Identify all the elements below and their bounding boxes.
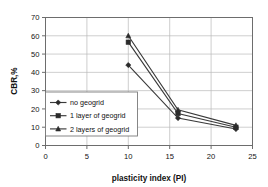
data-point-square-icon: [126, 40, 130, 44]
y-tick-label: 70: [31, 13, 39, 22]
y-tick-label: 20: [31, 105, 39, 114]
y-axis-title: CBR,%: [10, 67, 19, 95]
legend-item-label: 1 layer of geogrid: [70, 111, 126, 120]
x-tick-label: 5: [85, 152, 89, 161]
y-tick-label: 10: [31, 123, 39, 132]
y-tick-label: 60: [31, 32, 39, 41]
legend-item-label: no geogrid: [70, 98, 104, 107]
x-tick-label: 10: [124, 152, 132, 161]
legend-item-label: 2 layers of geogrid: [70, 125, 129, 134]
x-tick-label: 15: [165, 152, 173, 161]
y-tick-label: 0: [35, 141, 39, 150]
chart-legend: no geogrid1 layer of geogrid2 layers of …: [46, 92, 138, 136]
cbr-vs-plasticity-index-line-chart: 0510152025 010203040506070 no geogrid1 l…: [0, 0, 268, 187]
y-tick-label: 50: [31, 50, 39, 59]
x-axis-title: plasticity index (PI): [112, 174, 187, 183]
chart-container: 0510152025 010203040506070 no geogrid1 l…: [0, 0, 268, 187]
legend-marker-square-icon: [56, 113, 60, 117]
y-tick-label: 30: [31, 86, 39, 95]
x-tick-label: 0: [43, 152, 47, 161]
x-tick-label: 25: [248, 152, 256, 161]
x-tick-label: 20: [207, 152, 215, 161]
y-tick-label: 40: [31, 68, 39, 77]
